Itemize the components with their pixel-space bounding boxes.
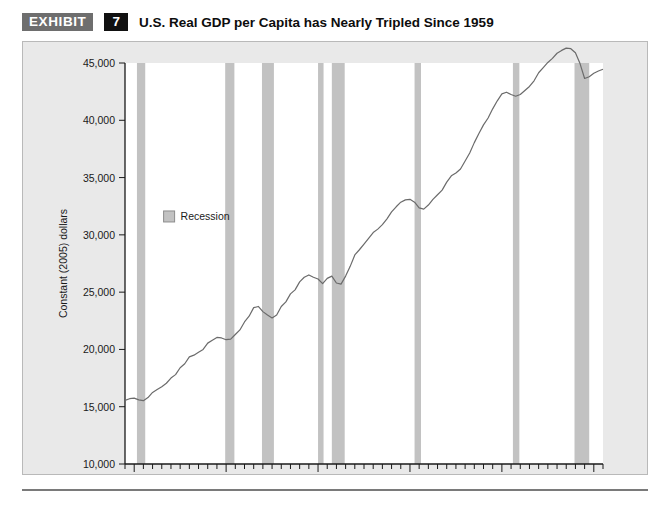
- exhibit-page: EXHIBIT 7 U.S. Real GDP per Capita has N…: [0, 0, 670, 508]
- legend-label-recession: Recession: [181, 210, 230, 222]
- y-axis-tick-label-5: 35,000: [83, 172, 115, 184]
- footer-rule: [22, 489, 648, 491]
- y-axis-tick-label-1: 15,000: [83, 401, 115, 413]
- exhibit-number-badge: 7: [104, 13, 128, 32]
- figure-panel: 10,00015,00020,00025,00030,00035,00040,0…: [22, 41, 648, 475]
- legend-swatch-recession: [164, 211, 175, 222]
- plot-area-background: [125, 63, 603, 464]
- recession-band-5: [415, 63, 421, 464]
- recession-band-0: [137, 63, 145, 464]
- y-axis-tick-label-6: 40,000: [83, 114, 115, 126]
- y-axis-tick-label-3: 25,000: [83, 286, 115, 298]
- recession-band-6: [513, 63, 519, 464]
- exhibit-header: EXHIBIT 7 U.S. Real GDP per Capita has N…: [22, 9, 648, 35]
- exhibit-label: EXHIBIT: [22, 13, 93, 32]
- recession-band-7: [575, 63, 590, 464]
- exhibit-title: U.S. Real GDP per Capita has Nearly Trip…: [139, 15, 494, 30]
- y-axis-title: Constant (2005) dollars: [57, 209, 69, 318]
- recession-band-2: [262, 63, 274, 464]
- gdp-per-capita-line-chart: 10,00015,00020,00025,00030,00035,00040,0…: [23, 42, 647, 474]
- y-axis-tick-label-4: 30,000: [83, 229, 115, 241]
- recession-band-4: [332, 63, 345, 464]
- recession-band-1: [225, 63, 234, 464]
- y-axis-tick-label-2: 20,000: [83, 343, 115, 355]
- y-axis-tick-label-7: 45,000: [83, 57, 115, 69]
- recession-band-3: [318, 63, 324, 464]
- y-axis-tick-label-0: 10,000: [83, 458, 115, 470]
